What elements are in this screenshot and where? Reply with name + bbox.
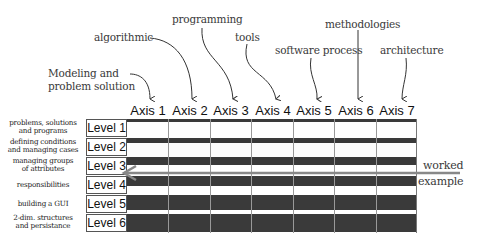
worked-example-arrow xyxy=(0,0,484,247)
worked-example-label-line1: worked xyxy=(423,159,463,172)
worked-example-label-line2: example xyxy=(418,175,463,188)
